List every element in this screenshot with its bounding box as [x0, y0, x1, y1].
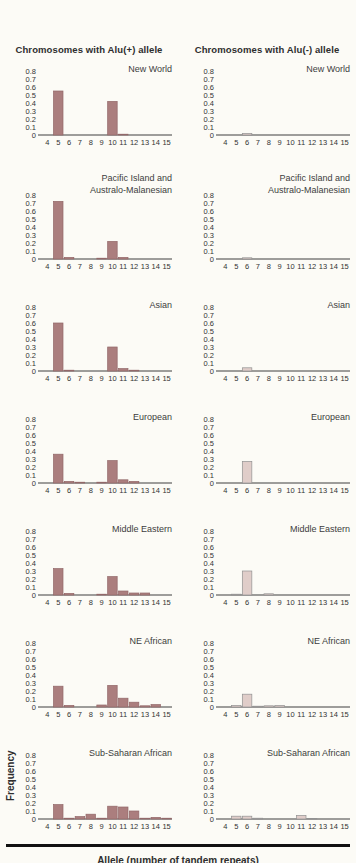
x-tick-label: 15 — [340, 822, 348, 831]
frequency-bar — [108, 806, 118, 819]
x-tick-label: 15 — [340, 374, 348, 383]
x-tick-label: 4 — [45, 486, 49, 495]
x-tick-label: 7 — [78, 822, 82, 831]
x-tick-label: 5 — [56, 262, 60, 271]
x-tick-label: 15 — [340, 710, 348, 719]
bar-chart-svg: New World0.80.70.60.50.40.30.20.10456789… — [178, 59, 356, 155]
x-tick-label: 6 — [67, 598, 71, 607]
bar-chart-svg: European0.80.70.60.50.40.30.20.104567891… — [0, 407, 178, 503]
x-tick-label: 12 — [130, 262, 138, 271]
frequency-bar — [97, 258, 107, 259]
frequency-bar — [232, 705, 242, 707]
x-tick-label: 10 — [286, 138, 294, 147]
x-tick-label: 12 — [308, 710, 316, 719]
x-tick-label: 10 — [108, 374, 116, 383]
x-tick-label: 5 — [234, 374, 238, 383]
chart-title: Asian — [327, 300, 350, 310]
bar-chart-svg: Pacific Island andAustralo-Malanesian0.8… — [178, 171, 356, 279]
figure-page: Chromosomes with Alu(+) allele Chromosom… — [0, 0, 356, 863]
x-tick-label: 10 — [286, 486, 294, 495]
x-tick-label: 11 — [119, 710, 127, 719]
x-tick-label: 10 — [108, 262, 116, 271]
x-tick-label: 6 — [67, 822, 71, 831]
x-tick-label: 12 — [130, 374, 138, 383]
frequency-bar — [108, 577, 118, 595]
x-tick-label: 6 — [245, 822, 249, 831]
x-tick-label: 8 — [89, 138, 93, 147]
x-tick-label: 10 — [108, 822, 116, 831]
x-tick-label: 8 — [267, 374, 271, 383]
x-tick-label: 13 — [319, 138, 327, 147]
x-tick-label: 13 — [319, 710, 327, 719]
x-tick-label: 15 — [162, 374, 170, 383]
x-tick-label: 10 — [286, 598, 294, 607]
frequency-bar — [162, 818, 172, 819]
x-tick-label: 13 — [319, 262, 327, 271]
x-tick-label: 13 — [319, 822, 327, 831]
x-tick-label: 14 — [152, 710, 160, 719]
y-tick-label: 0 — [32, 131, 36, 140]
x-tick-label: 11 — [297, 486, 305, 495]
frequency-bar — [64, 705, 74, 707]
frequency-bar — [129, 702, 139, 707]
chart-title: Pacific Island and — [279, 173, 350, 183]
frequency-bar — [242, 133, 252, 135]
frequency-bar — [264, 594, 274, 595]
x-tick-label: 7 — [256, 486, 260, 495]
frequency-bar — [86, 814, 96, 819]
chart-middle-eastern-alu-plus: Middle Eastern0.80.70.60.50.40.30.20.104… — [0, 519, 178, 619]
x-tick-label: 9 — [277, 598, 281, 607]
x-tick-label: 15 — [340, 598, 348, 607]
chart-title: Middle Eastern — [290, 524, 350, 534]
x-tick-label: 15 — [162, 710, 170, 719]
alu-minus-column-header: Chromosomes with Alu(-) allele — [178, 44, 356, 55]
y-tick-label: 0 — [32, 367, 36, 376]
x-tick-label: 11 — [119, 262, 127, 271]
y-tick-label: 0 — [210, 591, 214, 600]
x-tick-label: 9 — [99, 138, 103, 147]
x-tick-label: 9 — [277, 486, 281, 495]
y-tick-label: 0 — [210, 367, 214, 376]
x-tick-label: 11 — [119, 822, 127, 831]
x-tick-label: 14 — [152, 822, 160, 831]
x-tick-label: 14 — [330, 822, 338, 831]
y-axis-label: Frequency — [5, 750, 16, 801]
frequency-bar — [129, 593, 139, 595]
frequency-bar — [151, 705, 161, 707]
chart-title: New World — [306, 64, 350, 74]
x-tick-label: 15 — [162, 598, 170, 607]
x-tick-label: 8 — [267, 822, 271, 831]
x-tick-label: 10 — [108, 710, 116, 719]
chart-title: Pacific Island and — [101, 173, 172, 183]
chart-european-alu-minus: European0.80.70.60.50.40.30.20.104567891… — [178, 407, 356, 507]
frequency-bar — [119, 698, 129, 707]
y-tick-label: 0 — [210, 703, 214, 712]
x-tick-label: 5 — [234, 262, 238, 271]
x-tick-label: 8 — [267, 598, 271, 607]
x-tick-label: 7 — [256, 262, 260, 271]
chart-row-asian: Asian0.80.70.60.50.40.30.20.104567891011… — [0, 295, 356, 407]
x-tick-label: 4 — [45, 710, 49, 719]
x-tick-label: 11 — [297, 710, 305, 719]
x-tick-label: 5 — [56, 822, 60, 831]
x-tick-label: 14 — [330, 374, 338, 383]
y-tick-label: 0 — [32, 815, 36, 824]
frequency-bar — [242, 461, 252, 483]
x-tick-label: 8 — [267, 486, 271, 495]
frequency-bar — [108, 241, 118, 259]
x-tick-label: 8 — [89, 262, 93, 271]
x-tick-label: 5 — [56, 374, 60, 383]
x-tick-label: 12 — [130, 822, 138, 831]
x-axis-label: Allele (number of tandem repeats) — [0, 855, 356, 863]
x-tick-label: 13 — [141, 486, 149, 495]
bar-chart-svg: European0.80.70.60.50.40.30.20.104567891… — [178, 407, 356, 503]
chart-row-middle-eastern: Middle Eastern0.80.70.60.50.40.30.20.104… — [0, 519, 356, 631]
x-tick-label: 7 — [78, 598, 82, 607]
x-tick-label: 11 — [297, 822, 305, 831]
x-tick-label: 15 — [162, 138, 170, 147]
frequency-bar — [54, 686, 64, 707]
alu-plus-column-header: Chromosomes with Alu(+) allele — [0, 44, 178, 55]
x-tick-label: 4 — [45, 262, 49, 271]
x-tick-label: 9 — [277, 374, 281, 383]
frequency-bar — [140, 706, 150, 707]
